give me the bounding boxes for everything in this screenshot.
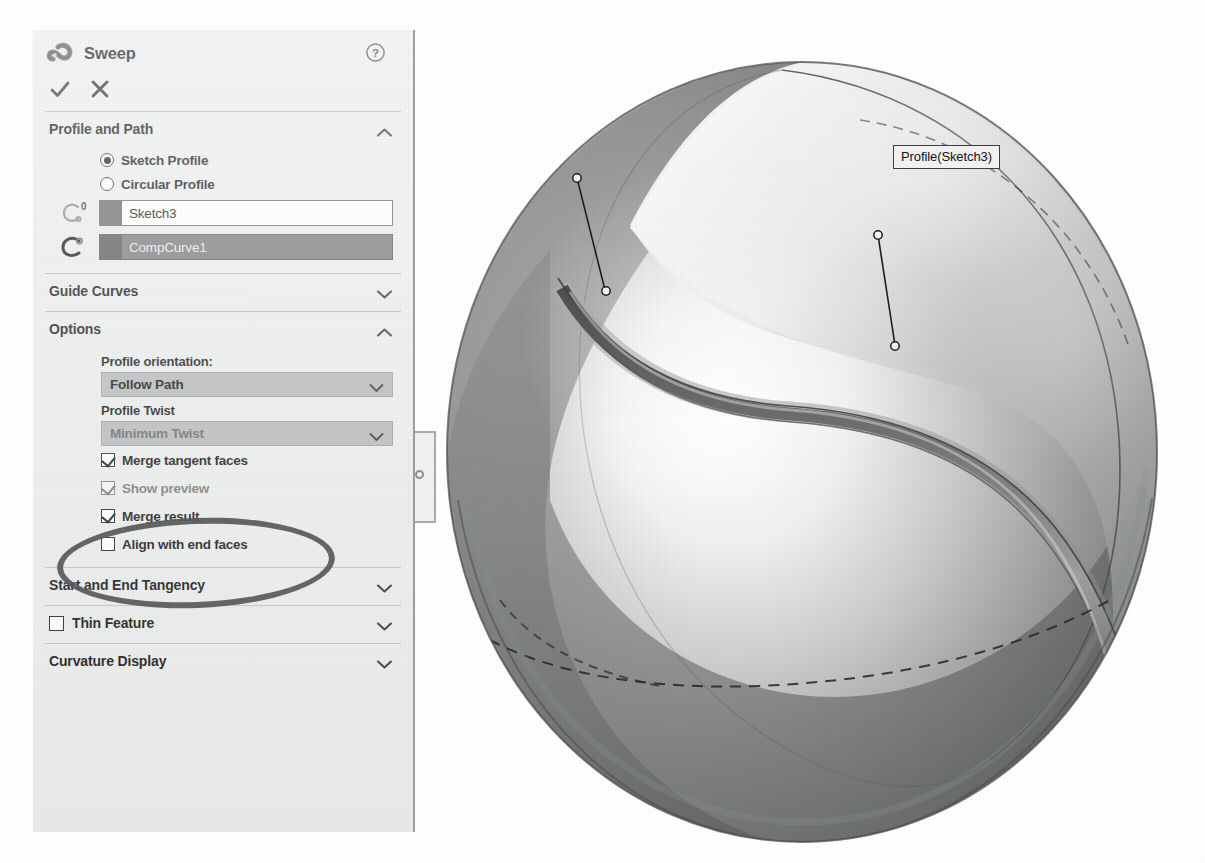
panel-resize-pin-dot[interactable] [415,470,424,479]
section-title: Start and End Tangency [49,577,205,593]
checkbox-merge-tangent-faces[interactable]: Merge tangent faces [43,446,403,474]
chevron-down-icon[interactable] [369,379,386,390]
section-title: Profile and Path [49,121,153,137]
profile-twist-label: Profile Twist [43,403,403,418]
field-color-swatch [100,201,122,225]
checkbox-mark-checked[interactable] [101,453,115,467]
section-title: Guide Curves [49,283,138,299]
profile-twist-value: Minimum Twist [110,426,204,441]
profile-selection-field[interactable]: Sketch3 [99,200,393,226]
checkbox-show-preview[interactable]: Show preview [43,474,403,502]
checkbox-label: Merge result [122,509,199,524]
section-header-guide-curves[interactable]: Guide Curves [43,274,403,308]
section-body-options: Profile orientation: Follow Path Profile… [43,346,403,564]
svg-text:?: ? [372,47,379,59]
chevron-up-icon[interactable] [376,324,393,335]
cancel-x-icon[interactable] [89,78,111,100]
chevron-down-icon[interactable] [376,618,393,629]
checkbox-merge-result[interactable]: Merge result [43,502,403,530]
checkbox-label: Merge tangent faces [122,453,248,468]
radio-sketch-profile[interactable]: Sketch Profile [43,148,403,172]
chevron-down-icon[interactable] [369,428,386,439]
accept-checkmark-icon[interactable] [49,78,71,100]
radio-label: Circular Profile [121,177,215,192]
help-question-icon[interactable]: ? [365,42,386,63]
radio-circular-profile[interactable]: Circular Profile [43,172,403,196]
profile-twist-select[interactable]: Minimum Twist [101,421,393,446]
section-header-thin-feature[interactable]: Thin Feature [43,606,403,640]
selection-row-profile: 0 Sketch3 [43,196,403,230]
sweep-property-manager: Sweep ? Profile a [33,30,415,832]
sweep-icon [46,40,76,66]
svg-text:0: 0 [81,201,87,212]
section-title: Options [49,321,101,337]
path-selection-value: CompCurve1 [122,240,207,255]
chevron-down-icon[interactable] [376,286,393,297]
checkbox-align-with-end-faces[interactable]: Align with end faces [43,530,403,558]
radio-mark-selected[interactable] [100,153,114,167]
radio-mark-unselected[interactable] [100,177,114,191]
profile-curve-icon: 0 [60,199,90,227]
section-header-curvature-display[interactable]: Curvature Display [43,644,403,678]
chevron-down-icon[interactable] [376,580,393,591]
graphics-viewport[interactable]: Profile(Sketch3) Path(CompCurve1) [430,0,1205,863]
section-title: Curvature Display [49,653,166,669]
checkbox-label: Show preview [122,481,209,496]
profile-orientation-value: Follow Path [110,377,184,392]
section-header-start-and-end-tangency[interactable]: Start and End Tangency [43,568,403,602]
checkbox-label: Align with end faces [122,537,248,552]
sphere-model[interactable] [430,0,1205,863]
section-body-profile-and-path: Sketch Profile Circular Profile 0 Sketc [43,146,403,270]
checkbox-mark-unchecked[interactable] [101,537,115,551]
section-header-profile-and-path[interactable]: Profile and Path [43,112,403,146]
path-curve-icon [60,233,90,261]
radio-label: Sketch Profile [121,153,208,168]
profile-selection-value: Sketch3 [122,206,176,221]
path-selection-field[interactable]: CompCurve1 [99,234,393,260]
page-title: Sweep [84,44,136,63]
panel-action-row [43,70,403,108]
field-color-swatch [100,235,122,259]
panel-header: Sweep ? [43,30,403,70]
callout-profile[interactable]: Profile(Sketch3) [893,145,1000,169]
checkbox-thin-feature[interactable] [49,616,64,631]
selection-row-path: CompCurve1 [43,230,403,264]
checkbox-mark-checked[interactable] [101,509,115,523]
section-header-options[interactable]: Options [43,312,403,346]
chevron-up-icon[interactable] [376,124,393,135]
sphere-body [447,62,1165,842]
chevron-down-icon[interactable] [376,656,393,667]
profile-orientation-select[interactable]: Follow Path [101,372,393,397]
checkbox-mark-checked[interactable] [101,481,115,495]
profile-orientation-label: Profile orientation: [43,354,403,369]
section-title: Thin Feature [72,615,154,631]
